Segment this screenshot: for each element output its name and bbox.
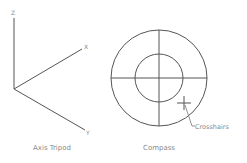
x-axis-label: X xyxy=(84,43,88,50)
y-axis-line xyxy=(14,89,85,130)
compass: Crosshairs Compass xyxy=(111,30,229,152)
crosshairs-label: Crosshairs xyxy=(195,123,229,131)
y-axis-label: Y xyxy=(85,129,90,136)
crosshairs-icon xyxy=(177,96,191,110)
compass-caption: Compass xyxy=(143,144,175,152)
crosshairs-leader-line xyxy=(185,105,195,126)
z-axis-label: Z xyxy=(11,9,15,16)
axis-tripod: Z X Y Axis Tripod xyxy=(11,9,90,152)
axis-tripod-caption: Axis Tripod xyxy=(33,144,71,152)
diagram-canvas: Z X Y Axis Tripod Crosshairs Compass xyxy=(0,0,247,163)
x-axis-line xyxy=(14,49,82,89)
